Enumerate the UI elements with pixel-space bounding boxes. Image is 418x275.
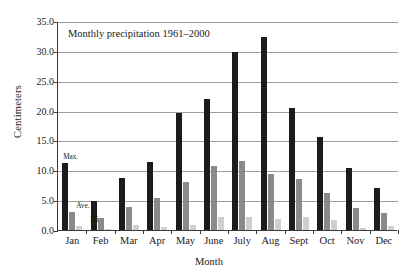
bar-min-feb xyxy=(105,229,111,230)
x-axis-tick-mark xyxy=(171,230,172,234)
bar-group xyxy=(91,201,111,230)
gridline xyxy=(58,82,398,83)
bar-max-sept xyxy=(289,108,295,230)
x-axis-tick-mark xyxy=(341,230,342,234)
x-axis-tick-mark xyxy=(256,230,257,234)
x-axis-tick-label-aug: Aug xyxy=(261,235,279,246)
bar-max-may xyxy=(176,113,182,230)
bar-group xyxy=(374,188,394,230)
bar-group xyxy=(317,137,337,230)
bar-ave-may xyxy=(183,182,189,230)
bar-max-nov xyxy=(346,168,352,230)
bar-max-feb xyxy=(91,201,97,230)
bar-min-sept xyxy=(303,217,309,230)
bar-group xyxy=(147,162,167,230)
y-axis-tick-mark xyxy=(54,82,58,83)
bar-group: Max.Ave.Min. xyxy=(62,163,82,230)
bar-ave-apr xyxy=(154,198,160,230)
bar-max-oct xyxy=(317,137,323,230)
bar-group xyxy=(176,113,196,230)
x-axis-tick-label-july: July xyxy=(233,235,251,246)
bar-group xyxy=(346,168,366,230)
y-axis-tick-label: 0.0 xyxy=(42,225,55,236)
plot-area: Monthly precipitation 1961–2000 0.05.010… xyxy=(57,22,397,231)
y-axis-tick-mark xyxy=(54,171,58,172)
y-axis-tick-label: 30.0 xyxy=(37,46,55,57)
series-callout-max: Max. xyxy=(63,153,78,161)
bar-min-june xyxy=(218,217,224,230)
x-axis-title: Month xyxy=(0,256,418,267)
y-axis-tick-mark xyxy=(54,112,58,113)
x-axis-tick-mark xyxy=(143,230,144,234)
x-axis-tick-label-apr: Apr xyxy=(149,235,165,246)
bar-ave-dec xyxy=(381,213,387,230)
bar-max-jan: Max. xyxy=(62,163,68,230)
bar-group xyxy=(261,37,281,230)
x-axis-tick-mark xyxy=(200,230,201,234)
bar-ave-july xyxy=(239,161,245,230)
y-axis-tick-mark xyxy=(54,141,58,142)
x-axis-tick-mark xyxy=(398,230,399,234)
bar-group xyxy=(204,99,224,230)
series-callout-ave: Ave. xyxy=(76,202,89,210)
chart-title: Monthly precipitation 1961–2000 xyxy=(68,28,210,39)
x-axis-tick-label-may: May xyxy=(176,235,195,246)
gridline xyxy=(58,141,398,142)
y-axis-tick-label: 5.0 xyxy=(42,195,55,206)
bar-min-july xyxy=(246,217,252,230)
bar-min-nov xyxy=(360,228,366,230)
y-axis-tick-label: 10.0 xyxy=(37,166,55,177)
bar-ave-june xyxy=(211,166,217,230)
bar-ave-feb xyxy=(98,218,104,230)
y-axis-tick-mark xyxy=(54,22,58,23)
x-axis-tick-mark xyxy=(86,230,87,234)
bar-group xyxy=(232,52,252,230)
x-axis-tick-label-sept: Sept xyxy=(289,235,308,246)
bar-max-july xyxy=(232,52,238,230)
bar-max-apr xyxy=(147,162,153,230)
bar-min-oct xyxy=(331,220,337,230)
y-axis-tick-label: 25.0 xyxy=(37,76,55,87)
y-axis-tick-mark xyxy=(54,52,58,53)
x-axis-tick-label-feb: Feb xyxy=(93,235,109,246)
gridline xyxy=(58,52,398,53)
bar-min-dec xyxy=(388,226,394,230)
bar-ave-mar xyxy=(126,207,132,230)
gridline xyxy=(58,22,398,23)
bar-max-june xyxy=(204,99,210,230)
bar-min-apr xyxy=(161,227,167,230)
y-axis-tick-mark xyxy=(54,201,58,202)
y-axis-tick-label: 20.0 xyxy=(37,106,55,117)
bar-ave-nov xyxy=(353,208,359,230)
bar-ave-oct xyxy=(324,193,330,230)
x-axis-tick-label-oct: Oct xyxy=(320,235,335,246)
x-axis-tick-mark xyxy=(285,230,286,234)
bar-min-aug xyxy=(275,219,281,230)
x-axis-tick-mark xyxy=(115,230,116,234)
bar-max-aug xyxy=(261,37,267,230)
x-axis-tick-label-jan: Jan xyxy=(65,235,79,246)
x-axis-tick-mark xyxy=(313,230,314,234)
bar-min-jan: Min. xyxy=(76,226,82,230)
y-axis-tick-label: 35.0 xyxy=(37,16,55,27)
x-axis-tick-label-june: June xyxy=(204,235,223,246)
x-axis-tick-label-dec: Dec xyxy=(375,235,392,246)
x-axis-tick-label-mar: Mar xyxy=(120,235,138,246)
bar-min-may xyxy=(190,225,196,230)
bar-group xyxy=(289,108,309,230)
x-axis-tick-mark xyxy=(228,230,229,234)
y-axis-tick-mark xyxy=(54,231,58,232)
y-axis-tick-label: 15.0 xyxy=(37,136,55,147)
y-axis-title: Centimeters xyxy=(12,52,23,172)
bar-group xyxy=(119,178,139,230)
gridline xyxy=(58,112,398,113)
bar-min-mar xyxy=(133,225,139,230)
bar-max-dec xyxy=(374,188,380,230)
x-axis-tick-label-nov: Nov xyxy=(346,235,364,246)
x-axis-tick-mark xyxy=(370,230,371,234)
bar-ave-aug xyxy=(268,174,274,230)
precipitation-bar-chart: Centimeters Monthly precipitation 1961–2… xyxy=(0,0,418,275)
bar-ave-sept xyxy=(296,179,302,230)
bar-max-mar xyxy=(119,178,125,230)
bar-ave-jan: Ave. xyxy=(69,212,75,230)
